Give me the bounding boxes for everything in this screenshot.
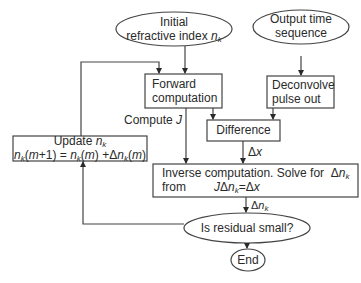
- delta-x-label: Δx: [248, 145, 262, 159]
- compute-j-label: Compute J: [124, 113, 182, 127]
- deconvolve-line2: pulse out: [272, 92, 335, 106]
- update-line1: Update nk: [13, 134, 147, 148]
- initial-index-label: Initial refractive index nk: [122, 15, 226, 43]
- end-label: End: [231, 253, 265, 267]
- output-line2: sequence: [256, 26, 346, 40]
- forward-line2: computation: [152, 91, 217, 105]
- update-label: Update nk nk(m+1) = nk(m) +Δnk(m): [13, 134, 147, 162]
- initial-line2: refractive index nk: [122, 29, 226, 43]
- output-line1: Output time: [256, 12, 346, 26]
- difference-label: Difference: [207, 123, 280, 137]
- initial-line1: Initial: [122, 15, 226, 29]
- inverse-line1: Inverse computation. Solve for Δnk: [162, 166, 349, 180]
- residual-label: Is residual small?: [184, 221, 310, 235]
- inverse-line2: fromJΔnk=Δx: [162, 180, 349, 194]
- forward-computation-label: Forward computation: [152, 77, 217, 105]
- inverse-computation-label: Inverse computation. Solve for Δnk fromJ…: [162, 166, 349, 194]
- output-sequence-label: Output time sequence: [256, 12, 346, 40]
- update-equation: nk(m+1) = nk(m) +Δnk(m): [13, 148, 147, 162]
- forward-line1: Forward: [152, 77, 217, 91]
- deconvolve-label: Deconvolve pulse out: [272, 78, 335, 106]
- delta-nk-label: Δnk: [251, 198, 268, 212]
- deconvolve-line1: Deconvolve: [272, 78, 335, 92]
